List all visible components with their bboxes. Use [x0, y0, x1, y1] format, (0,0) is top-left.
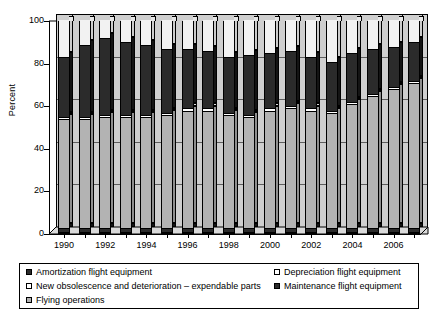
bar-front-face: [182, 21, 194, 234]
bar-segment-flying_operations: [162, 116, 172, 229]
bar-front-face: [202, 21, 214, 234]
x-tick-mark: [394, 234, 395, 238]
x-tick-mark: [291, 234, 292, 238]
bar-segment-new_obsolescence: [265, 109, 275, 111]
bar-segment-maintenance: [203, 52, 213, 110]
bar-segment-amortization: [224, 229, 234, 233]
x-tick-label: 1996: [173, 240, 203, 250]
bar-segment-maintenance: [327, 63, 337, 112]
x-tick-label: 2006: [379, 240, 409, 250]
x-tick-label: 1990: [49, 240, 79, 250]
bar-2001[interactable]: [285, 21, 297, 234]
bar-segment-amortization: [59, 229, 69, 233]
legend-item-depreciation: Depreciation flight equipment: [274, 267, 401, 277]
bar-segment-flying_operations: [80, 120, 90, 229]
bar-segment-amortization: [265, 229, 275, 233]
bar-2000[interactable]: [264, 21, 276, 234]
x-tick-mark: [249, 234, 250, 238]
bar-2004[interactable]: [346, 21, 358, 234]
bar-front-face: [161, 21, 173, 234]
x-tick-label: 1998: [214, 240, 244, 250]
bar-1998[interactable]: [223, 21, 235, 234]
bar-front-face: [408, 21, 420, 234]
bar-segment-maintenance: [306, 58, 316, 109]
bar-segment-amortization: [409, 229, 419, 233]
bar-segment-flying_operations: [224, 116, 234, 229]
bar-segment-depreciation: [203, 20, 213, 52]
bar-segment-maintenance: [121, 43, 131, 115]
x-tick-mark: [373, 234, 374, 238]
x-tick-mark: [126, 234, 127, 238]
bar-1996[interactable]: [182, 21, 194, 234]
bar-segment-depreciation: [224, 20, 234, 58]
y-tick-mark: [44, 234, 49, 235]
bar-segment-maintenance: [141, 46, 151, 116]
legend-label: Amortization flight equipment: [36, 267, 152, 277]
bar-segment-flying_operations: [389, 90, 399, 228]
bar-segment-flying_operations: [244, 118, 254, 229]
bar-segment-new_obsolescence: [100, 116, 110, 118]
bar-segment-maintenance: [286, 52, 296, 107]
bar-1993[interactable]: [120, 21, 132, 234]
bar-segment-new_obsolescence: [80, 118, 90, 120]
bar-1991[interactable]: [79, 21, 91, 234]
bar-segment-maintenance: [409, 43, 419, 81]
bar-segment-depreciation: [286, 20, 296, 52]
bar-segment-flying_operations: [347, 105, 357, 229]
legend-label: Flying operations: [36, 295, 105, 305]
bar-segment-flying_operations: [183, 112, 193, 229]
bar-segment-amortization: [203, 229, 213, 233]
bar-segment-amortization: [244, 229, 254, 233]
bar-2006[interactable]: [388, 21, 400, 234]
x-tick-mark: [85, 234, 86, 238]
bar-segment-amortization: [286, 229, 296, 233]
bar-1997[interactable]: [202, 21, 214, 234]
bar-segment-depreciation: [265, 20, 275, 54]
bar-2002[interactable]: [305, 21, 317, 234]
bar-segment-amortization: [327, 229, 337, 233]
bar-1992[interactable]: [99, 21, 111, 234]
bar-segment-amortization: [100, 229, 110, 233]
bar-front-face: [99, 21, 111, 234]
y-axis-title: Percent: [7, 70, 17, 130]
plot-area: Percent 020406080100 1990199219941996199…: [0, 0, 435, 250]
bar-1994[interactable]: [140, 21, 152, 234]
bar-1995[interactable]: [161, 21, 173, 234]
bar-segment-depreciation: [327, 20, 337, 63]
bar-segment-maintenance: [59, 58, 69, 118]
bar-segment-flying_operations: [203, 112, 213, 229]
x-tick-mark: [105, 234, 106, 238]
bar-segment-depreciation: [59, 20, 69, 58]
x-tick-mark: [208, 234, 209, 238]
bar-segment-depreciation: [121, 20, 131, 43]
x-tick-label: 1994: [131, 240, 161, 250]
bar-segment-amortization: [347, 229, 357, 233]
bar-1990[interactable]: [58, 21, 70, 234]
bar-segment-maintenance: [389, 48, 399, 88]
bar-segment-new_obsolescence: [347, 103, 357, 105]
legend-item-maintenance: Maintenance flight equipment: [274, 281, 402, 291]
bar-segment-amortization: [183, 229, 193, 233]
bar-segment-maintenance: [80, 46, 90, 118]
bar-segment-depreciation: [306, 20, 316, 58]
x-tick-mark: [311, 234, 312, 238]
bar-front-face: [140, 21, 152, 234]
bar-2003[interactable]: [326, 21, 338, 234]
bar-2007[interactable]: [408, 21, 420, 234]
bar-segment-maintenance: [347, 54, 357, 103]
bar-front-face: [223, 21, 235, 234]
x-tick-label: 1992: [90, 240, 120, 250]
bar-2005[interactable]: [367, 21, 379, 234]
bar-segment-flying_operations: [121, 118, 131, 229]
bar-segment-new_obsolescence: [327, 112, 337, 114]
chart-container: Percent 020406080100 1990199219941996199…: [0, 0, 435, 325]
bar-segment-new_obsolescence: [183, 109, 193, 111]
bar-segment-depreciation: [368, 20, 378, 50]
legend-item-flying-operations: Flying operations: [26, 295, 105, 305]
bar-front-face: [120, 21, 132, 234]
bar-segment-amortization: [162, 229, 172, 233]
bar-front-face: [367, 21, 379, 234]
chart-legend: Amortization flight equipment Depreciati…: [19, 263, 419, 309]
x-tick-mark: [188, 234, 189, 238]
bar-1999[interactable]: [243, 21, 255, 234]
